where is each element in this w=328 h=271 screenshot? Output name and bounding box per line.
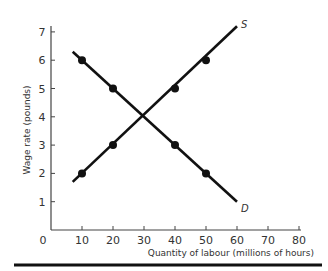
y-tick-label: 3 xyxy=(39,139,46,152)
x-tick-label: 80 xyxy=(292,234,306,247)
y-tick-label: 4 xyxy=(39,111,46,124)
data-point xyxy=(202,169,210,177)
x-tick-label: 0 xyxy=(40,234,47,247)
data-point xyxy=(171,141,179,149)
labour-market-chart: 123456701020304050607080 SD Wage rate (p… xyxy=(0,0,328,271)
y-tick-label: 5 xyxy=(39,83,46,96)
y-tick-label: 6 xyxy=(39,54,46,67)
x-tick-label: 30 xyxy=(137,234,151,247)
y-tick-label: 1 xyxy=(39,196,46,209)
curve-label-d: D xyxy=(241,203,249,214)
x-axis-title: Quantity of labour (millions of hours) xyxy=(148,248,314,258)
y-axis-title: Wage rate (pounds) xyxy=(22,85,32,174)
data-point xyxy=(109,85,117,93)
x-tick-label: 20 xyxy=(106,234,120,247)
data-point xyxy=(78,56,86,64)
curve-s xyxy=(73,26,237,182)
data-point xyxy=(171,85,179,93)
x-tick-label: 70 xyxy=(261,234,275,247)
data-point xyxy=(78,169,86,177)
curve-d xyxy=(73,52,237,202)
y-tick-label: 2 xyxy=(39,167,46,180)
x-tick-label: 10 xyxy=(75,234,89,247)
x-tick-label: 40 xyxy=(168,234,182,247)
y-tick-label: 7 xyxy=(39,26,46,39)
x-tick-label: 60 xyxy=(230,234,244,247)
data-point xyxy=(202,56,210,64)
series: SD xyxy=(73,19,249,213)
x-tick-label: 50 xyxy=(199,234,213,247)
data-point xyxy=(109,141,117,149)
curve-label-s: S xyxy=(241,19,248,30)
